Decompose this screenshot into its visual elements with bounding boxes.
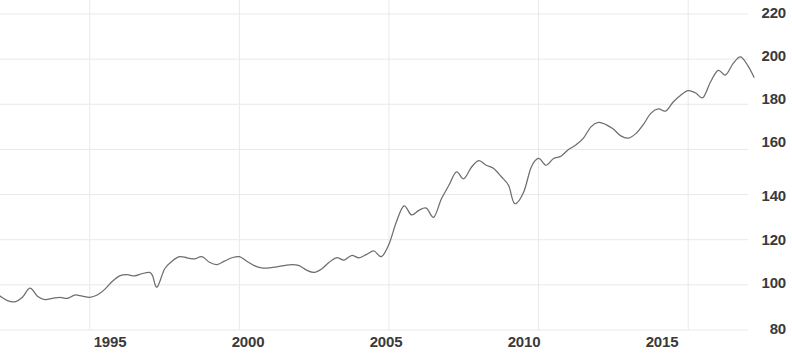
y-axis-tick-label: 220 xyxy=(740,4,786,21)
x-axis-tick-label: 2005 xyxy=(356,333,416,350)
y-axis-tick-label: 100 xyxy=(740,274,786,291)
y-axis-tick-label: 120 xyxy=(740,231,786,248)
x-axis-tick-label: 1995 xyxy=(80,333,140,350)
line-chart: 22020018016014012010080 1995200020052010… xyxy=(0,0,792,357)
data-series-line xyxy=(0,57,754,302)
y-axis-tick-label: 180 xyxy=(740,90,786,107)
y-axis-tick-label: 80 xyxy=(740,320,786,337)
y-axis-tick-label: 140 xyxy=(740,187,786,204)
x-axis-tick-label: 2000 xyxy=(218,333,278,350)
y-axis-tick-label: 200 xyxy=(740,47,786,64)
y-axis-tick-label: 160 xyxy=(740,133,786,150)
vertical-gridlines xyxy=(90,0,688,330)
x-axis-tick-label: 2015 xyxy=(632,333,692,350)
chart-plot-area xyxy=(0,0,792,357)
horizontal-gridlines xyxy=(0,14,748,330)
x-axis-tick-label: 2010 xyxy=(494,333,554,350)
